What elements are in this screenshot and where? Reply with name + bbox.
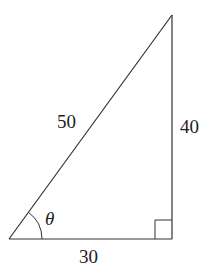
angle-theta-label: θ [45,208,54,229]
vertical-leg-label: 40 [180,116,199,137]
hypotenuse-line [9,15,172,239]
angle-theta-arc [28,212,42,239]
horizontal-leg-label: 30 [79,246,98,267]
hypotenuse-label: 50 [57,111,76,132]
right-angle-marker [155,220,172,239]
right-triangle-diagram: 50 40 30 θ [0,0,220,275]
